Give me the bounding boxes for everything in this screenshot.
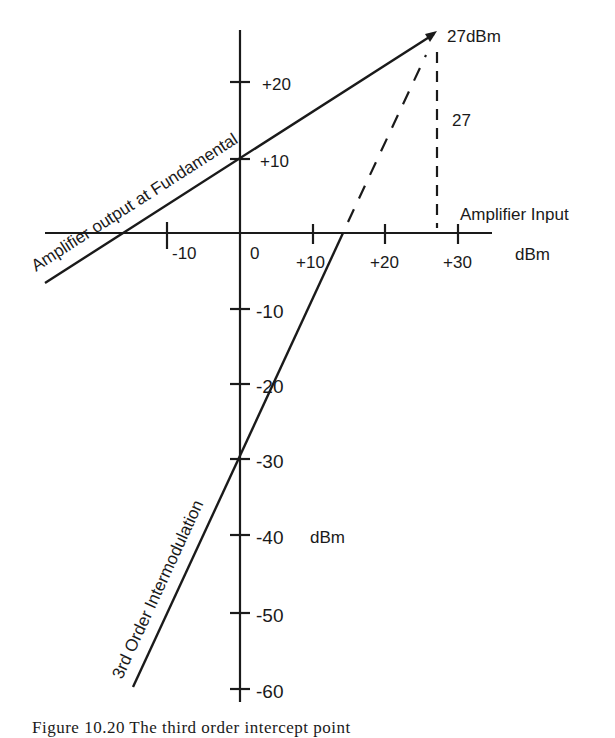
x-axis-label: Amplifier Input (460, 205, 569, 224)
intercept-arrow-icon (425, 31, 437, 42)
y-tick-label-minus50: -50 (256, 605, 283, 626)
y-tick-label-plus20: +20 (262, 75, 291, 94)
intermod-line (133, 233, 343, 687)
x-tick-label-plus20: +20 (370, 253, 399, 272)
x-tick-label-plus10: +10 (296, 253, 325, 272)
y-axis-unit: dBm (310, 528, 345, 547)
x-ticks (167, 222, 458, 249)
y-tick-label-minus10: -10 (256, 301, 283, 322)
intermod-extrapolation-dashed (348, 55, 426, 222)
x-axis-unit: dBm (515, 245, 550, 264)
intercept-height-label: 27 (452, 111, 471, 130)
fundamental-line-label: Amplifier output at Fundamental (28, 130, 241, 276)
x-tick-label-plus30: +30 (443, 253, 472, 272)
y-tick-label-minus40: -40 (256, 527, 283, 548)
y-tick-label-minus60: -60 (256, 681, 283, 702)
origin-label: 0 (250, 244, 259, 263)
y-tick-label-minus30: -30 (256, 451, 283, 472)
x-tick-label-minus10: -10 (172, 244, 197, 263)
intercept-point-label: 27dBm (447, 27, 501, 46)
figure-caption: Figure 10.20 The third order intercept p… (32, 718, 351, 738)
intermod-line-label: 3rd Order Intermodulation (108, 497, 207, 682)
y-tick-label-plus10: +10 (260, 152, 289, 171)
axes (45, 30, 492, 702)
